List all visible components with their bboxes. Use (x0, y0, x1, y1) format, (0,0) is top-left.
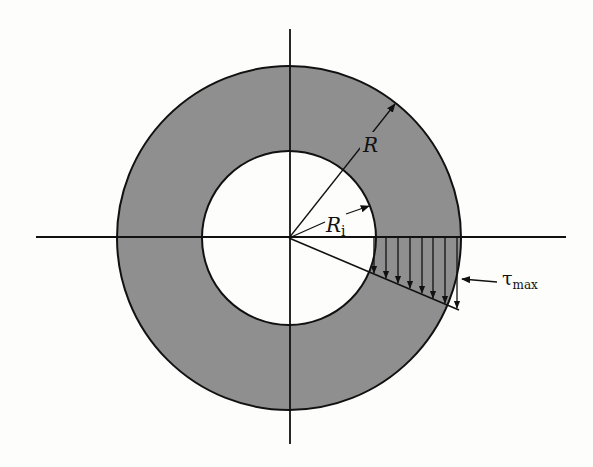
outer-radius-label: R (362, 133, 378, 157)
tau-max-label: τmax (502, 267, 538, 292)
tau-max-arrow (462, 279, 497, 282)
diagram-canvas: R Ri τmax (0, 0, 593, 467)
annulus-diagram: R Ri τmax (0, 0, 593, 467)
